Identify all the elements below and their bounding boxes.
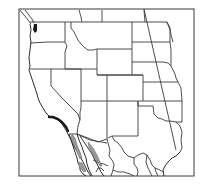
ks-east-border: [178, 82, 182, 101]
tx-east-border: [176, 122, 182, 152]
shaded-gulf-region: [88, 142, 102, 166]
map-frame: [19, 9, 194, 176]
nd-mn-border: [167, 22, 170, 42]
mexico-state-line-3: [134, 158, 138, 176]
strait-line-1: [20, 10, 31, 24]
or-id-border: [65, 42, 67, 69]
ut-co-border: [97, 75, 107, 101]
ne-outline: [132, 75, 178, 82]
ne-east-border: [175, 74, 178, 82]
nm-tx-border: [108, 101, 138, 138]
nv-ut-border: [80, 69, 81, 120]
canada-notch-1: [79, 10, 82, 22]
mexico-state-line-1: [108, 143, 114, 176]
canada-border: [30, 22, 173, 42]
mexico-state-line-2: [113, 170, 134, 176]
tx-gulf-coast: [163, 152, 180, 176]
pacific-coastline: [29, 24, 91, 176]
ok-tx-border: [138, 101, 176, 122]
sd-ne-border: [132, 62, 171, 66]
id-mt-border: [71, 22, 97, 50]
ok-east-border: [176, 101, 182, 122]
wy-outline: [97, 49, 132, 75]
az-ca-border: [77, 120, 80, 134]
shaded-baja-south: [78, 162, 86, 172]
ca-nv-border: [51, 69, 80, 120]
meridian-line: [144, 9, 176, 150]
rio-grande: [112, 136, 163, 172]
western-us-map: [0, 0, 200, 190]
wa-or-border: [30, 42, 65, 43]
sd-east-border: [170, 42, 175, 74]
strait-line-2: [25, 10, 34, 23]
puget-sound: [33, 24, 37, 33]
